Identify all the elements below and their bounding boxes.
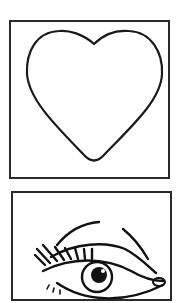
eye-card[interactable] — [11, 191, 172, 301]
heart-icon — [11, 22, 168, 177]
eye-icon — [13, 193, 170, 303]
heart-card[interactable] — [9, 20, 170, 179]
